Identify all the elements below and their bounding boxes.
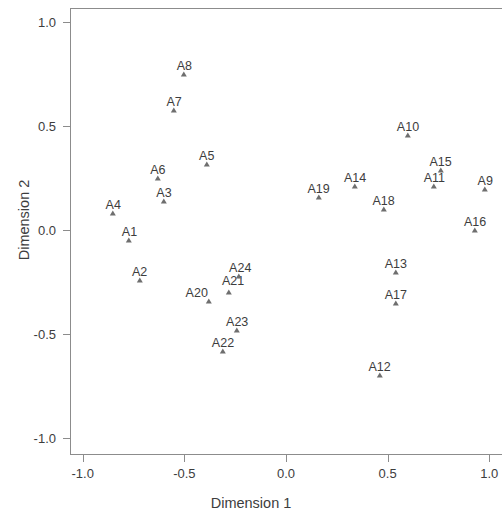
y-axis-tick bbox=[63, 438, 70, 439]
x-axis-tick bbox=[286, 455, 287, 462]
y-axis-tick bbox=[63, 22, 70, 23]
scatter-plot: -1.0-0.50.00.51.01.00.50.0-0.5-1.0 A1A2A… bbox=[0, 0, 502, 524]
data-point-label: A22 bbox=[212, 336, 234, 349]
x-axis-title: Dimension 1 bbox=[0, 495, 502, 511]
y-axis-tick-label: 1.0 bbox=[12, 16, 56, 29]
data-point-label: A23 bbox=[226, 315, 248, 328]
y-axis-tick bbox=[63, 334, 70, 335]
data-point-label: A19 bbox=[307, 182, 329, 195]
x-axis-tick bbox=[83, 455, 84, 462]
triangle-marker-icon bbox=[226, 290, 232, 295]
data-point-label: A7 bbox=[167, 95, 182, 108]
y-axis-tick bbox=[63, 230, 70, 231]
x-axis-tick bbox=[489, 455, 490, 462]
data-point-label: A1 bbox=[122, 226, 137, 239]
x-axis-tick bbox=[184, 455, 185, 462]
y-axis-tick bbox=[63, 126, 70, 127]
data-point-label: A18 bbox=[372, 195, 394, 208]
x-axis-tick-label: 0.0 bbox=[277, 467, 295, 480]
data-point-label: A20 bbox=[186, 286, 208, 299]
data-point-label: A16 bbox=[464, 216, 486, 229]
y-axis-tick-label: -1.0 bbox=[12, 431, 56, 444]
data-point-label: A4 bbox=[106, 199, 121, 212]
data-point-label: A11 bbox=[424, 172, 445, 185]
data-point-label: A17 bbox=[385, 288, 407, 301]
data-point-label: A9 bbox=[478, 174, 493, 187]
data-point-label: A2 bbox=[132, 265, 147, 278]
x-axis-tick-label: 0.5 bbox=[379, 467, 397, 480]
data-point-label: A10 bbox=[397, 120, 419, 133]
data-point-label: A3 bbox=[156, 186, 171, 199]
data-point-label: A8 bbox=[177, 60, 192, 73]
data-point-label: A24 bbox=[229, 261, 251, 274]
data-point-label: A14 bbox=[344, 172, 366, 185]
data-point-label: A6 bbox=[150, 164, 165, 177]
x-axis-tick-label: 1.0 bbox=[480, 467, 498, 480]
x-axis-tick-label: -0.5 bbox=[173, 467, 195, 480]
data-point-label: A13 bbox=[385, 257, 407, 270]
y-axis-title: Dimension 2 bbox=[16, 100, 32, 340]
data-point-label: A15 bbox=[429, 155, 451, 168]
data-point-label: A12 bbox=[368, 361, 390, 374]
data-point-label: A5 bbox=[199, 149, 214, 162]
x-axis-tick bbox=[388, 455, 389, 462]
x-axis-tick-label: -1.0 bbox=[71, 467, 93, 480]
